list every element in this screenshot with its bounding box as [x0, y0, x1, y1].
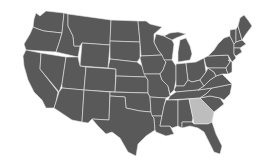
state-pennsylvania[interactable] [204, 55, 230, 68]
state-florida[interactable] [182, 122, 222, 154]
us-map [0, 0, 266, 162]
state-wyoming[interactable] [80, 43, 110, 68]
state-michigan[interactable] [178, 38, 192, 62]
state-north-dakota[interactable] [110, 20, 140, 42]
state-south-dakota[interactable] [110, 41, 140, 62]
state-connecticut[interactable] [234, 48, 242, 56]
state-colorado[interactable] [84, 67, 116, 92]
state-montana[interactable] [68, 14, 111, 46]
state-new-mexico[interactable] [82, 90, 110, 123]
state-arizona[interactable] [54, 88, 84, 122]
state-kansas[interactable] [115, 76, 148, 93]
